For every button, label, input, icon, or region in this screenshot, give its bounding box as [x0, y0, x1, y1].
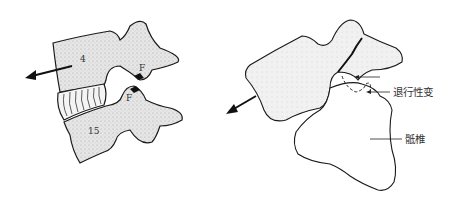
- anterior-arrow-down-left: [226, 96, 256, 114]
- right-figure: 退行性变 骶椎: [226, 20, 434, 190]
- label-lower-facet: F: [126, 93, 132, 103]
- spondylolisthesis-diagram: 4 15 F F 退行性变 骶椎: [0, 0, 456, 209]
- label-degeneration: 退行性变: [393, 86, 434, 98]
- label-l5: 15: [88, 126, 100, 136]
- label-l4: 4: [80, 54, 86, 64]
- label-sacrum: 骶椎: [405, 133, 425, 145]
- label-upper-facet: F: [139, 63, 145, 73]
- left-figure: 4 15 F F: [25, 21, 182, 163]
- upper-vertebra-l4: [53, 21, 179, 92]
